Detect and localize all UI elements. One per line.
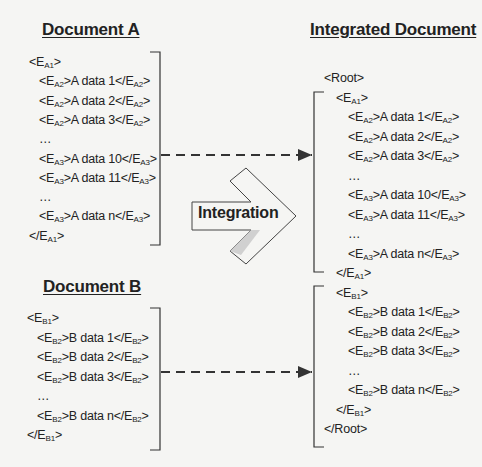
integration-label: Integration (198, 204, 278, 222)
integrated-a-bracket (314, 92, 324, 272)
document-b-bracket (150, 308, 160, 450)
connectors (0, 0, 482, 467)
document-a-bracket (150, 52, 160, 245)
integrated-b-bracket (314, 286, 324, 447)
